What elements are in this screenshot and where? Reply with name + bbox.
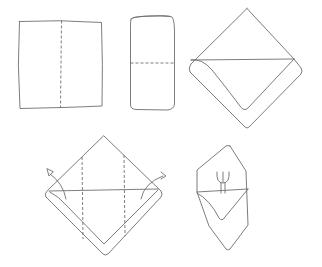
step-1-square — [18, 21, 102, 109]
step-3-diamond — [189, 9, 302, 129]
napkin-fold-diagram: Napkin folding steps — [0, 0, 322, 267]
diagram-canvas — [0, 0, 322, 267]
step-2-rectangle — [130, 16, 174, 110]
step-5-pocket-fork — [197, 146, 248, 251]
step-4-diamond-arrows — [45, 136, 166, 255]
